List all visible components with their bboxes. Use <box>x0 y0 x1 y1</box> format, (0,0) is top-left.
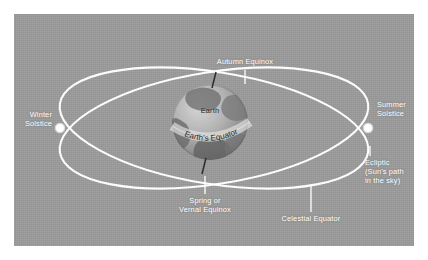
label-winter-solstice: Winter Solstice <box>2 110 52 128</box>
label-ecliptic: Ecliptic (Sun's path in the sky) <box>365 158 427 186</box>
earth-axis-bottom <box>202 158 206 174</box>
diagram-canvas <box>0 0 428 260</box>
label-earth: Earth <box>186 106 234 115</box>
earth-globe <box>161 72 253 174</box>
winter-solstice-marker <box>54 122 65 133</box>
summer-solstice-marker <box>362 122 373 133</box>
label-summer-solstice: Summer Solstice <box>377 100 427 118</box>
label-celestial-equator: Celestial Equator <box>262 214 360 223</box>
label-spring-vernal-equinox: Spring or Vernal Equinox <box>160 196 250 214</box>
label-autumn-equinox: Autumn Equinox <box>196 57 294 66</box>
figure-container: Autumn Equinox Winter Solstice Summer So… <box>0 0 428 260</box>
